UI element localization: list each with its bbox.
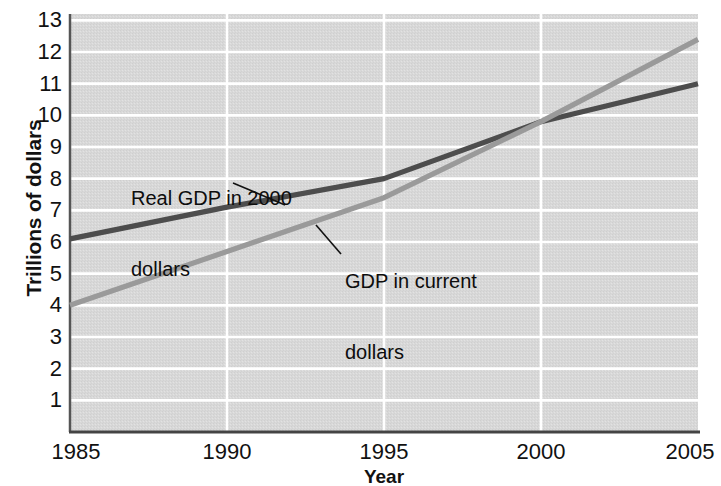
annotation-current-gdp: GDP in current dollars	[345, 223, 477, 412]
annotation-real-gdp-line1: Real GDP in 2000	[131, 187, 292, 211]
annotation-current-gdp-line2: dollars	[345, 341, 477, 365]
annotation-real-gdp: Real GDP in 2000 dollars	[131, 140, 292, 329]
chart-figure: Trillions of dollars 13121110987654321 1…	[0, 0, 721, 486]
annotation-current-gdp-line1: GDP in current	[345, 270, 477, 294]
annotation-real-gdp-line2: dollars	[131, 258, 292, 282]
